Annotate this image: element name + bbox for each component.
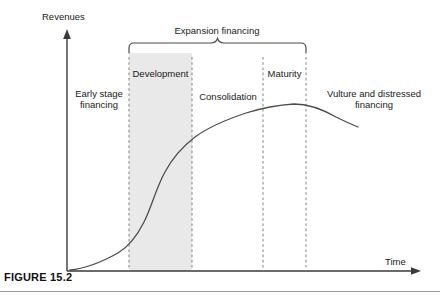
expansion-financing-brace — [129, 39, 306, 54]
figure-container: Revenues Time Expansion financing Develo… — [0, 0, 440, 295]
y-axis — [63, 29, 71, 271]
figure-caption: FIGURE 15.2 — [4, 271, 72, 283]
stage-label-consolidation: Consolidation — [193, 91, 263, 102]
expansion-financing-label: Expansion financing — [128, 25, 306, 36]
y-axis-label: Revenues — [42, 11, 85, 22]
stage-label-early-stage-financing: Early stage financing — [70, 88, 128, 110]
revenue-curve — [70, 104, 358, 270]
development-shaded-band — [129, 53, 192, 271]
stage-label-development: Development — [129, 68, 192, 79]
x-axis — [67, 267, 421, 275]
chart-canvas — [0, 0, 440, 295]
bottom-divider-rule — [0, 291, 440, 292]
stage-label-vulture-financing: Vulture and distressed financing — [315, 88, 433, 110]
x-axis-label: Time — [385, 256, 406, 267]
stage-label-maturity: Maturity — [263, 68, 306, 79]
